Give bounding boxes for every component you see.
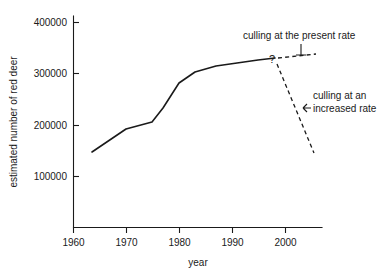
- x-tick-label-1970: 1970: [115, 237, 138, 248]
- annotation-increased-rate-label-line1: culling at an: [313, 90, 366, 101]
- y-tick-label-400000: 400000: [34, 17, 68, 28]
- annotation-increased-rate-leader: [303, 104, 311, 112]
- y-tick-label-200000: 200000: [34, 120, 68, 131]
- y-tick-label-100000: 100000: [34, 171, 68, 182]
- uncertainty-question-mark: ?: [269, 53, 275, 65]
- annotation-present-rate-leader: [296, 44, 306, 55]
- y-tick-label-300000: 300000: [34, 68, 68, 79]
- x-tick-label-1980: 1980: [168, 237, 191, 248]
- x-axis-ticks: 1960 1970 1980 1990 2000: [62, 228, 297, 249]
- y-axis-ticks: 400000 300000 200000 100000: [34, 17, 79, 182]
- x-tick-label-1990: 1990: [221, 237, 244, 248]
- historic-population-line: [92, 58, 275, 152]
- x-tick-label-1960: 1960: [62, 237, 85, 248]
- y-axis-title: estimated number of red deer: [8, 56, 19, 188]
- x-tick-label-2000: 2000: [274, 237, 297, 248]
- x-axis-title: year: [188, 257, 208, 268]
- annotation-present-rate-label: culling at the present rate: [243, 30, 356, 41]
- chart-screenshot: 400000 300000 200000 100000 1960 1970 19…: [0, 0, 381, 274]
- red-deer-line-chart: 400000 300000 200000 100000 1960 1970 19…: [0, 0, 381, 274]
- annotation-increased-rate-label-line2: increased rate: [313, 103, 377, 114]
- chart-axes: [74, 16, 323, 228]
